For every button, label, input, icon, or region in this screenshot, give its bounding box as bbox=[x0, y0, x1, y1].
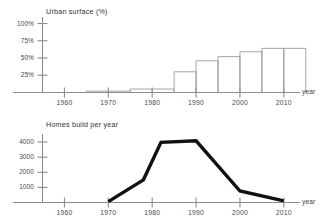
x-tick-label: 1990 bbox=[178, 99, 214, 106]
x-tick-label: 1980 bbox=[134, 99, 170, 106]
x-tick-label: 1990 bbox=[178, 209, 214, 216]
x-tick-label: 1960 bbox=[46, 209, 82, 216]
y-tick-label: 50% bbox=[2, 54, 34, 61]
bar bbox=[240, 52, 262, 93]
x-tick-label: 2000 bbox=[222, 209, 258, 216]
x-tick-label: 2010 bbox=[266, 99, 302, 106]
y-tick-label: 4000 bbox=[2, 138, 34, 145]
homes-built-title: Homes build per year bbox=[46, 120, 118, 129]
y-tick-label: 2000 bbox=[2, 168, 34, 175]
urban-surface-title: Urban surface (%) bbox=[46, 7, 108, 16]
y-tick-label: 100% bbox=[2, 20, 34, 27]
bar bbox=[218, 57, 240, 93]
urban-surface-xaxis-label: year bbox=[302, 88, 315, 95]
homes-axes bbox=[13, 134, 300, 203]
bar-series bbox=[86, 48, 305, 92]
x-tick-label: 1970 bbox=[90, 99, 126, 106]
y-tick-label: 25% bbox=[2, 71, 34, 78]
bar bbox=[196, 61, 218, 93]
line-series-path bbox=[108, 141, 284, 202]
x-tick-label: 1960 bbox=[46, 99, 82, 106]
chart-urban-surface: Urban surface (%) year 100%75%50%25% 196… bbox=[0, 0, 326, 112]
bar bbox=[284, 48, 306, 92]
y-tick-label: 75% bbox=[2, 37, 34, 44]
x-tick-label: 2000 bbox=[222, 99, 258, 106]
x-tick-label: 2010 bbox=[266, 209, 302, 216]
y-tick-label: 1000 bbox=[2, 183, 34, 190]
urban-surface-plot-area bbox=[0, 0, 326, 112]
bar bbox=[262, 48, 284, 92]
urban-axes bbox=[13, 17, 300, 93]
y-tick-label: 3000 bbox=[2, 153, 34, 160]
x-tick-label: 1970 bbox=[90, 209, 126, 216]
bar bbox=[174, 72, 196, 93]
homes-built-xaxis-label: year bbox=[302, 198, 315, 205]
x-tick-label: 1980 bbox=[134, 209, 170, 216]
chart-homes-built: Homes build per year year 40003000200010… bbox=[0, 112, 326, 224]
